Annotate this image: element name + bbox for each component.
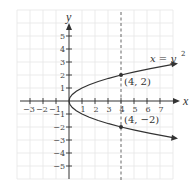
x-tick-label: 7: [158, 105, 163, 114]
y-tick-label: −5: [53, 162, 65, 171]
x-axis-label: x: [182, 94, 189, 108]
y-axis-label: y: [65, 10, 72, 24]
x-tick-label: 6: [145, 105, 150, 114]
point-upper-label: (4, 2): [124, 76, 151, 87]
x-tick-label: 2: [93, 105, 98, 114]
point-lower-label: (4, −2): [124, 114, 159, 125]
x-tick-label: −3: [23, 105, 35, 114]
parabola-figure: −3 −2 −1 1 2 3 4 5 6 7 5 4 3 2 1 −1 −2 −…: [0, 0, 196, 189]
y-tick-label: 2: [60, 71, 65, 80]
y-tick-label: −1: [53, 110, 65, 119]
y-tick-label: 5: [60, 32, 65, 41]
x-tick-label: 5: [132, 105, 137, 114]
point-4-neg2: [119, 125, 123, 129]
curve-label-exponent: 2: [181, 50, 185, 58]
point-4-2: [119, 73, 123, 77]
x-axis: [20, 98, 180, 104]
curve-label: x = y: [150, 53, 176, 64]
grid: [17, 10, 173, 179]
y-tick-label: 3: [60, 58, 65, 67]
y-axis-arrow-icon: [66, 23, 72, 30]
y-tick-label: −2: [53, 123, 65, 132]
x-axis-arrow-icon: [173, 98, 180, 104]
y-tick-label: 4: [60, 45, 65, 54]
lower-branch-arrow-icon: [171, 135, 178, 141]
x-tick-label: 1: [80, 105, 85, 114]
x-tick-labels: −3 −2 −1 1 2 3 4 5 6 7: [23, 105, 163, 114]
y-tick-label: −4: [53, 149, 65, 158]
y-tick-label: −3: [53, 136, 65, 145]
x-tick-label: 4: [119, 105, 124, 114]
x-tick-label: 3: [106, 105, 111, 114]
x-tick-label: −2: [36, 105, 48, 114]
y-tick-label: 1: [60, 84, 65, 93]
